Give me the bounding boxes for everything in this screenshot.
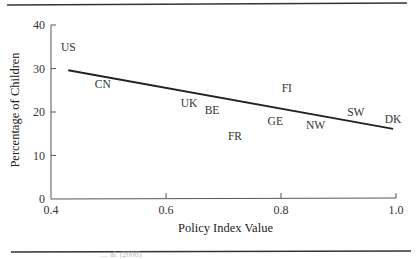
axes: [51, 25, 396, 199]
source-note: … al. (2006): [100, 250, 141, 259]
y-tick-label: 20: [33, 105, 45, 119]
x-axis-title: Policy Index Value: [178, 221, 273, 235]
data-point-ge: GE: [268, 115, 283, 127]
data-point-fi: FI: [282, 82, 292, 94]
data-point-uk: UK: [181, 97, 198, 109]
data-points: USCNUKBEFRGEFINWSWDK: [61, 41, 402, 142]
bottom-rule: [11, 251, 411, 252]
x-tick-label: 0.4: [44, 203, 59, 217]
y-tick-label: 40: [33, 18, 45, 32]
data-point-us: US: [61, 41, 76, 53]
data-point-dk: DK: [385, 113, 402, 125]
trend-line: [68, 70, 393, 129]
data-point-sw: SW: [347, 106, 364, 118]
y-axis-title: Percentage of Children: [8, 52, 22, 168]
x-axis-line: [51, 198, 396, 199]
data-point-nw: NW: [306, 119, 325, 131]
y-tick-label: 30: [33, 62, 45, 76]
y-tick-label: 10: [33, 149, 45, 163]
x-ticks: 0.40.60.81.0: [44, 193, 404, 217]
x-tick-label: 0.8: [274, 203, 289, 217]
y-ticks: 010203040: [33, 18, 56, 206]
x-tick-label: 1.0: [389, 203, 404, 217]
data-point-be: BE: [205, 104, 220, 116]
data-point-cn: CN: [95, 78, 112, 90]
data-point-fr: FR: [228, 130, 242, 142]
x-tick-label: 0.6: [159, 203, 174, 217]
top-rule: [7, 3, 407, 5]
